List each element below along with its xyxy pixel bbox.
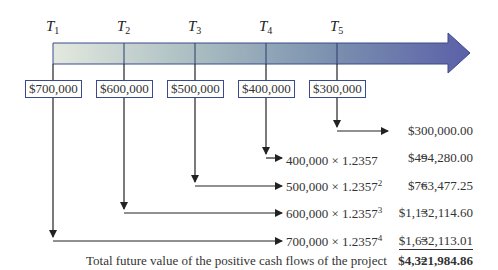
- period-label-t2: T2: [117, 18, 130, 36]
- calc-row-t4: 400,000 × 1.2357 = $494,280.00: [286, 150, 473, 166]
- calc-value: $1,132,114.60: [399, 205, 473, 221]
- calc-value: $300,000.00: [408, 123, 473, 139]
- calc-row-t3: 500,000 × 1.23572 = $763,477.25: [286, 178, 473, 194]
- calc-expression: 400,000 × 1.2357: [286, 150, 378, 169]
- calc-value: $1,632,113.01: [399, 233, 473, 250]
- total-value: $4,321,984.86: [398, 253, 473, 269]
- cash-flow-box-t5: $300,000: [309, 80, 366, 98]
- period-label-t5: T5: [330, 18, 343, 36]
- period-label-t1: T1: [46, 18, 59, 36]
- cash-flow-box-t4: $400,000: [238, 80, 295, 98]
- calc-row-t1: 700,000 × 1.23574 = $1,632,113.01: [286, 233, 473, 249]
- period-label-t4: T4: [259, 18, 272, 36]
- cash-flow-box-t1: $700,000: [25, 80, 82, 98]
- period-label-t3: T3: [188, 18, 201, 36]
- calc-row-t5: $300,000.00: [286, 123, 473, 139]
- total-row: Total future value of the positive cash …: [60, 253, 473, 269]
- cash-flow-box-t2: $600,000: [96, 80, 153, 98]
- total-label: Total future value of the positive cash …: [86, 253, 387, 269]
- calc-row-t2: 600,000 × 1.23573 = $1,132,114.60: [286, 205, 473, 221]
- calc-value: $763,477.25: [408, 178, 473, 194]
- calc-expression: 700,000 × 1.23574: [286, 233, 382, 250]
- timeline-arrow: [53, 33, 470, 73]
- calc-value: $494,280.00: [408, 150, 473, 166]
- cash-flow-box-t3: $500,000: [167, 80, 224, 98]
- calc-expression: 500,000 × 1.23572: [286, 178, 382, 195]
- calc-expression: 600,000 × 1.23573: [286, 205, 382, 222]
